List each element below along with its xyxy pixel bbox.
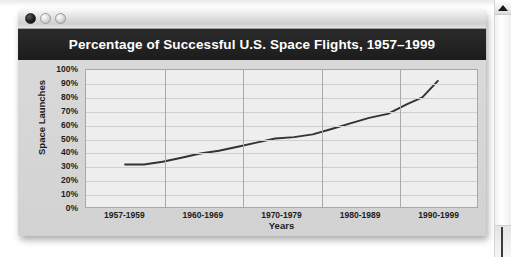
window-titlebar[interactable] (18, 9, 486, 29)
gridline-horizontal (86, 112, 477, 113)
y-axis-tick-label: 90% (61, 78, 78, 88)
scrollbar-track[interactable] (495, 225, 511, 257)
y-axis-tick-label: 10% (61, 189, 78, 199)
page-background: Percentage of Successful U.S. Space Flig… (0, 0, 511, 257)
vertical-scrollbar[interactable] (494, 0, 511, 257)
x-axis-title: Years (85, 220, 478, 231)
scrollbar-seam (501, 227, 503, 257)
y-axis-tick-labels: 100%90%80%70%60%50%40%30%20%10%0% (40, 60, 80, 236)
y-axis-tick-label: 40% (61, 147, 78, 157)
gridline-horizontal (86, 195, 477, 196)
gridline-horizontal (86, 98, 477, 99)
triangle-up-icon (498, 5, 508, 11)
x-axis-tick-label: 1980-1989 (340, 210, 381, 220)
y-axis-tick-label: 80% (61, 92, 78, 102)
y-axis-tick-label: 0% (66, 203, 78, 213)
y-axis-tick-label: 30% (61, 161, 78, 171)
gridline-vertical (243, 70, 244, 207)
gridline-vertical (165, 70, 166, 207)
gridline-horizontal (86, 181, 477, 182)
gridline-horizontal (86, 167, 477, 168)
gridline-horizontal (86, 84, 477, 85)
plot-area (85, 69, 478, 208)
gridline-horizontal (86, 153, 477, 154)
x-axis-tick-label: 1970-1979 (261, 210, 302, 220)
gridline-vertical (322, 70, 323, 207)
x-axis-tick-label: 1957-1959 (104, 210, 145, 220)
gridline-horizontal (86, 140, 477, 141)
gridline-horizontal (86, 126, 477, 127)
chart-area: Space Launches 100%90%80%70%60%50%40%30%… (18, 60, 486, 236)
desktop-backdrop (0, 0, 511, 6)
x-axis-tick-label: 1990-1999 (418, 210, 459, 220)
line-series-svg (86, 70, 477, 207)
chart-title-banner: Percentage of Successful U.S. Space Flig… (18, 29, 486, 60)
y-axis-tick-label: 70% (61, 106, 78, 116)
chart-title: Percentage of Successful U.S. Space Flig… (69, 37, 435, 52)
scroll-up-arrow-icon[interactable] (495, 0, 511, 15)
y-axis-tick-label: 100% (56, 64, 78, 74)
close-icon[interactable] (25, 13, 36, 24)
y-axis-tick-label: 20% (61, 175, 78, 185)
y-axis-tick-label: 50% (61, 134, 78, 144)
zoom-icon[interactable] (55, 13, 66, 24)
gridline-vertical (400, 70, 401, 207)
application-window: Percentage of Successful U.S. Space Flig… (18, 9, 486, 236)
y-axis-tick-label: 60% (61, 120, 78, 130)
minimize-icon[interactable] (40, 13, 51, 24)
x-axis-tick-label: 1960-1969 (183, 210, 224, 220)
